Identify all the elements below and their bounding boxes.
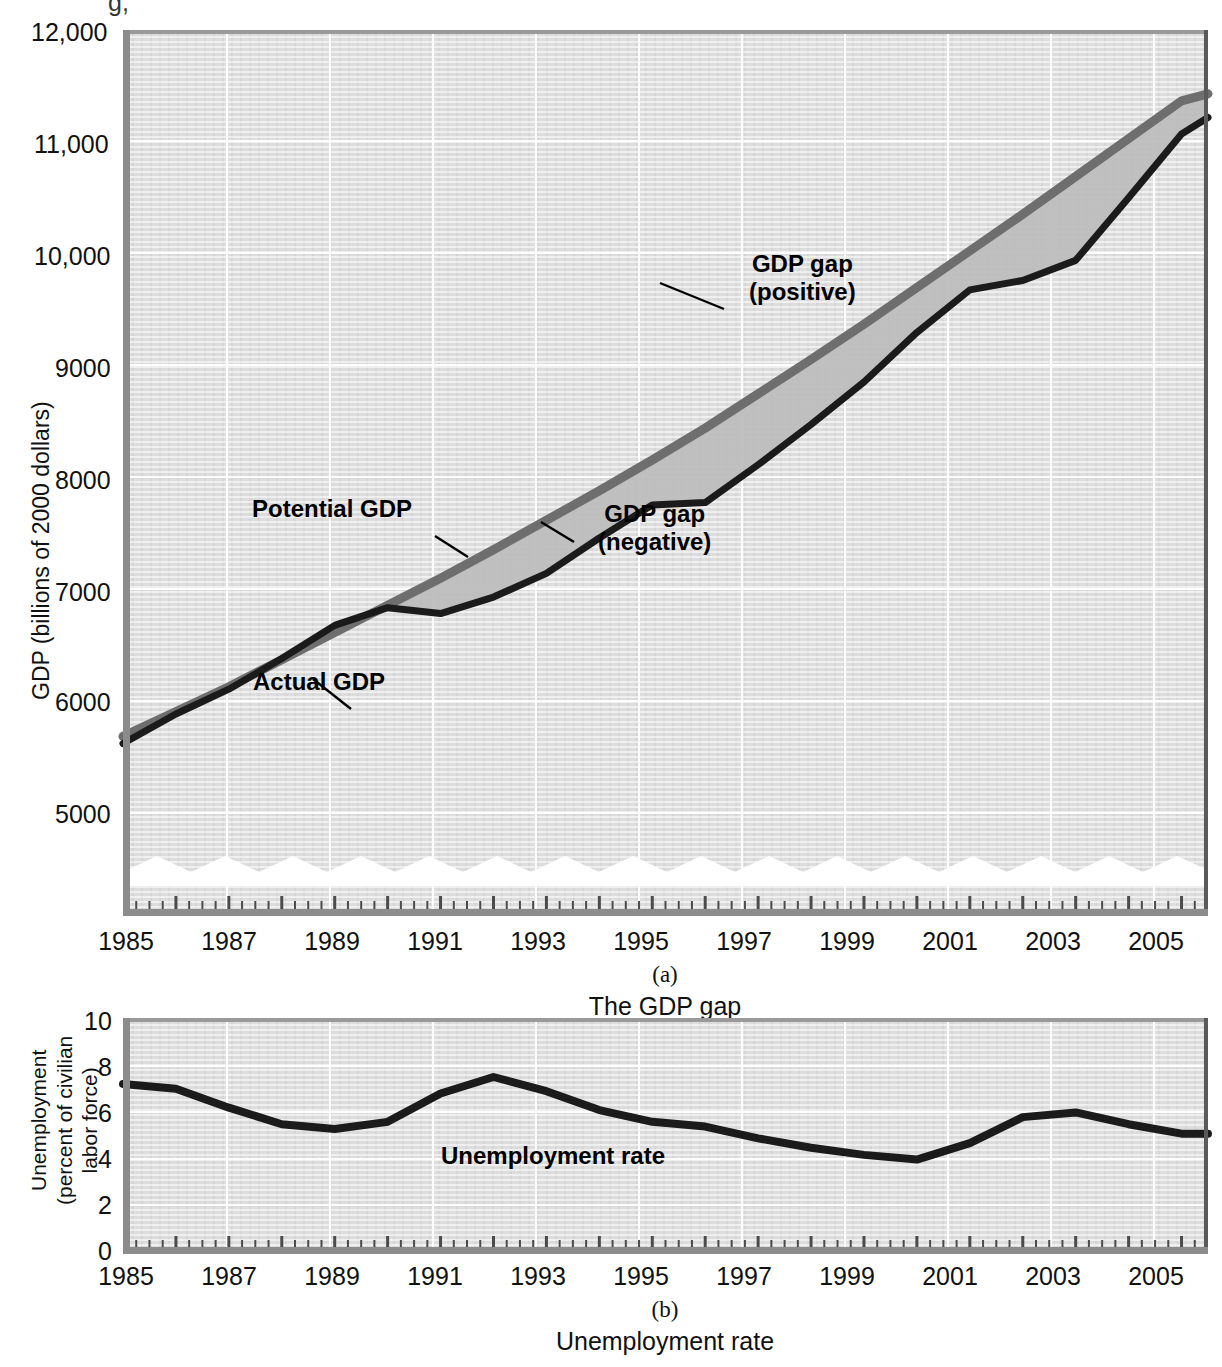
panel-b-xtick-1997: 1997 xyxy=(716,1262,772,1291)
annotation-gap-positive-line2: (positive) xyxy=(749,278,856,306)
panel-a-ytick-12000: 12,000 xyxy=(31,18,107,47)
panel-a-series-layer xyxy=(123,30,1208,916)
panel-b-ytick-10: 10 xyxy=(84,1007,112,1036)
panel-a-xtick-2005: 2005 xyxy=(1128,927,1184,956)
panel-b-xtick-1987: 1987 xyxy=(201,1262,257,1291)
panel-a-frame-left xyxy=(123,30,130,916)
panel-a-xtick-1993: 1993 xyxy=(510,927,566,956)
panel-b-xtick-1989: 1989 xyxy=(304,1262,360,1291)
panel-a-y-axis-title: GDP (billions of 2000 dollars) xyxy=(28,401,55,700)
panel-a-xtick-2001: 2001 xyxy=(922,927,978,956)
leader-line-potential xyxy=(435,536,468,557)
potential-gdp-line xyxy=(123,94,1208,737)
panel-a-ytick-9000: 9000 xyxy=(55,354,111,383)
panel-b-caption-letter: (b) xyxy=(652,1297,679,1323)
panel-b-xtick-2005: 2005 xyxy=(1128,1262,1184,1291)
panel-a-xtick-1987: 1987 xyxy=(201,927,257,956)
panel-b-xtick-1999: 1999 xyxy=(819,1262,875,1291)
panel-b-xtick-2001: 2001 xyxy=(922,1262,978,1291)
panel-a-xtick-1995: 1995 xyxy=(613,927,669,956)
panel-a-frame-top xyxy=(123,30,1208,34)
figure-canvas: g, GDP (billions of 2000 dollars) 12,000… xyxy=(0,0,1222,1367)
panel-a-caption-text: The GDP gap xyxy=(589,992,741,1021)
annotation-potential-gdp: Potential GDP xyxy=(252,495,412,523)
gdp-gap-fill xyxy=(123,94,1208,744)
panel-b-ytick-8: 8 xyxy=(98,1053,112,1082)
panel-a-ytick-8000: 8000 xyxy=(55,466,111,495)
panel-a-caption-letter: (a) xyxy=(652,962,678,988)
annotation-gap-negative-line1: GDP gap xyxy=(598,500,711,528)
panel-a-frame-right xyxy=(1204,30,1208,916)
axis-break-zigzag xyxy=(123,854,1208,894)
panel-a-xtick-1991: 1991 xyxy=(407,927,463,956)
annotation-actual-gdp: Actual GDP xyxy=(253,668,385,696)
panel-a-frame-bottom xyxy=(123,909,1208,916)
panel-a-xtick-1999: 1999 xyxy=(819,927,875,956)
unemployment-rate-line xyxy=(123,1077,1208,1160)
panel-b-xtick-1993: 1993 xyxy=(510,1262,566,1291)
leader-line-gap-positive xyxy=(660,283,724,309)
panel-b-caption-text: Unemployment rate xyxy=(556,1327,774,1356)
panel-b-series-layer xyxy=(123,1018,1208,1254)
annotation-gap-negative-line2: (negative) xyxy=(598,528,711,556)
panel-b-y-axis-title-line1: Unemployment xyxy=(26,1036,52,1205)
panel-a-xtick-1997: 1997 xyxy=(716,927,772,956)
panel-b-ytick-4: 4 xyxy=(98,1145,112,1174)
annotation-gdp-gap-positive: GDP gap (positive) xyxy=(749,250,856,307)
panel-b-xtick-2003: 2003 xyxy=(1025,1262,1081,1291)
panel-b-ytick-2: 2 xyxy=(98,1191,112,1220)
panel-b-xtick-1995: 1995 xyxy=(613,1262,669,1291)
panel-b-y-axis-title: Unemployment (percent of civilian labor … xyxy=(26,1036,103,1205)
annotation-gdp-gap-negative: GDP gap (negative) xyxy=(598,500,711,557)
panel-b-xtick-1991: 1991 xyxy=(407,1262,463,1291)
panel-b-ytick-6: 6 xyxy=(98,1099,112,1128)
panel-a-ytick-10000: 10,000 xyxy=(34,242,110,271)
panel-b-plot-area xyxy=(123,1018,1208,1254)
panel-a-ytick-11000: 11,000 xyxy=(34,130,109,159)
annotation-gap-positive-line1: GDP gap xyxy=(749,250,856,278)
panel-a-xtick-2003: 2003 xyxy=(1025,927,1081,956)
panel-a-xtick-1985: 1985 xyxy=(98,927,154,956)
cropped-top-glyph: g, xyxy=(108,0,129,17)
panel-b-frame-bottom xyxy=(123,1247,1208,1254)
panel-b-frame-left xyxy=(123,1018,130,1254)
panel-a-xtick-1989: 1989 xyxy=(304,927,360,956)
annotation-unemployment-rate: Unemployment rate xyxy=(441,1142,665,1170)
panel-b-xtick-1985: 1985 xyxy=(98,1262,154,1291)
panel-a-ytick-7000: 7000 xyxy=(55,578,111,607)
panel-a-ytick-6000: 6000 xyxy=(55,688,111,717)
panel-b-frame-top xyxy=(123,1018,1208,1022)
panel-a-ytick-5000: 5000 xyxy=(55,800,111,829)
panel-b-y-axis-title-line2: (percent of civilian xyxy=(52,1036,78,1205)
panel-a-plot-area xyxy=(123,30,1208,916)
panel-b-frame-right xyxy=(1204,1018,1208,1254)
